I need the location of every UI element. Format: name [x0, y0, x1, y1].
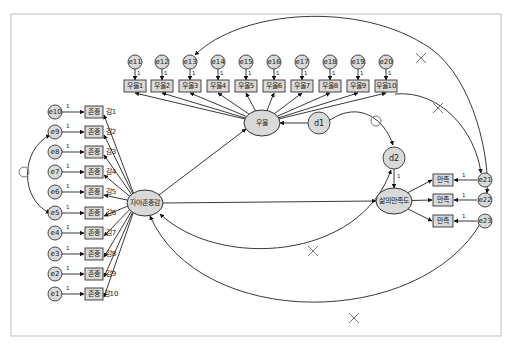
- indicator-label: 우울8: [322, 82, 338, 90]
- error-term-label: e1: [51, 290, 60, 298]
- error-term-label: e15: [239, 58, 252, 66]
- error-term-label: e6: [51, 188, 60, 196]
- fixed-loading-label: 1: [66, 285, 70, 291]
- fixed-loading-label: 1: [66, 265, 70, 271]
- fixed-loading-label: 1: [220, 70, 224, 76]
- indicator-label: 존중: [88, 229, 101, 237]
- fixed-loading-label: 1: [66, 123, 70, 129]
- sem-diagram-canvas: e101존중감1e91존중감2e81존중감3e71존중감4e61존중감5e51존…: [0, 0, 509, 344]
- indicator-label: 우울10: [376, 82, 397, 90]
- indicator-full-label: 감5: [106, 188, 116, 196]
- error-term-label: e2: [51, 270, 60, 278]
- indicator-label: 존중: [88, 209, 101, 217]
- error-term-label: e13: [183, 58, 196, 66]
- indicator-label: 우울9: [350, 82, 366, 90]
- error-term-label: e14: [211, 58, 225, 66]
- latent-life-satisfaction-label: 삶의만족도: [379, 196, 410, 205]
- fixed-loading-label: 1: [397, 173, 401, 179]
- fixed-loading-label: 1: [192, 70, 196, 76]
- diagram-frame: [11, 14, 501, 336]
- error-term-label: e20: [379, 58, 392, 66]
- fixed-loading-label: 1: [332, 70, 336, 76]
- fixed-loading-label: 1: [66, 224, 70, 230]
- fixed-loading-label: 1: [66, 245, 70, 251]
- error-term-label: e4: [51, 229, 60, 237]
- error-term-label: e7: [51, 168, 60, 176]
- indicator-label: 존중: [88, 168, 101, 176]
- error-term-label: e16: [267, 58, 281, 66]
- fixed-loading-label: 1: [360, 70, 364, 76]
- indicator-label: 존중: [88, 270, 101, 278]
- fixed-loading-label: 1: [164, 70, 168, 76]
- indicator-label: 존중: [88, 148, 101, 156]
- error-term-label: e19: [351, 58, 364, 66]
- indicator-label: 존중: [88, 290, 101, 298]
- indicator-full-label: 감6: [106, 209, 117, 217]
- error-term-label: e12: [155, 58, 168, 66]
- fixed-loading-label: 1: [462, 172, 466, 178]
- error-term-label: e23: [478, 217, 491, 225]
- error-term-label: e5: [51, 209, 60, 217]
- indicator-label: 존중: [88, 128, 101, 136]
- indicator-label: 우울4: [210, 82, 227, 90]
- indicator-label: 우울6: [266, 82, 283, 90]
- indicator-full-label: 감10: [104, 290, 119, 298]
- indicator-full-label: 감3: [106, 148, 116, 156]
- indicator-label: 존중: [88, 188, 101, 196]
- error-term-label: e8: [51, 148, 60, 156]
- fixed-loading-label: 1: [66, 143, 70, 149]
- indicator-label: 존중: [88, 108, 101, 116]
- latent-depression-label: 우울: [256, 119, 269, 127]
- indicator-full-label: 감1: [106, 108, 116, 116]
- error-term-label: e21: [478, 176, 491, 184]
- error-term-label: e18: [323, 58, 336, 66]
- indicator-full-label: 감9: [106, 270, 116, 278]
- fixed-loading-label: 1: [137, 70, 141, 76]
- fixed-loading-label: 1: [462, 192, 466, 198]
- indicator-label: 우울3: [182, 82, 198, 90]
- fixed-loading-label: 1: [388, 70, 392, 76]
- indicator-label: 우울5: [238, 82, 254, 90]
- error-term-label: e3: [51, 250, 60, 258]
- fixed-loading-label: 1: [66, 183, 70, 189]
- indicator-full-label: 감4: [106, 168, 117, 176]
- latent-self-esteem-label: 자아존중감: [130, 198, 161, 207]
- disturbance-label: d1: [314, 119, 324, 128]
- indicator-label: 만족: [437, 175, 450, 184]
- indicator-label: 존중: [88, 250, 101, 258]
- indicator-label: 우울2: [154, 82, 170, 90]
- fixed-loading-label: 1: [276, 70, 280, 76]
- indicator-full-label: 감8: [106, 250, 116, 258]
- error-term-label: e9: [51, 128, 60, 136]
- fixed-loading-label: 1: [304, 70, 308, 76]
- fixed-loading-label: 1: [462, 213, 466, 219]
- fixed-loading-label: 1: [248, 70, 252, 76]
- fixed-loading-label: 1: [66, 103, 70, 109]
- indicator-label: 우울7: [294, 82, 310, 90]
- fixed-loading-label: 1: [66, 163, 70, 169]
- indicator-label: 만족: [437, 195, 450, 204]
- indicator-label: 만족: [437, 216, 450, 225]
- error-term-label: e10: [48, 108, 61, 116]
- fixed-loading-label: 1: [66, 204, 70, 210]
- indicator-label: 우울1: [127, 82, 143, 90]
- error-term-label: e11: [128, 58, 141, 66]
- error-term-label: e22: [478, 196, 491, 204]
- indicator-full-label: 감7: [106, 229, 116, 237]
- indicator-full-label: 감2: [106, 128, 116, 136]
- error-term-label: e17: [295, 58, 308, 66]
- disturbance-label: d2: [389, 154, 399, 163]
